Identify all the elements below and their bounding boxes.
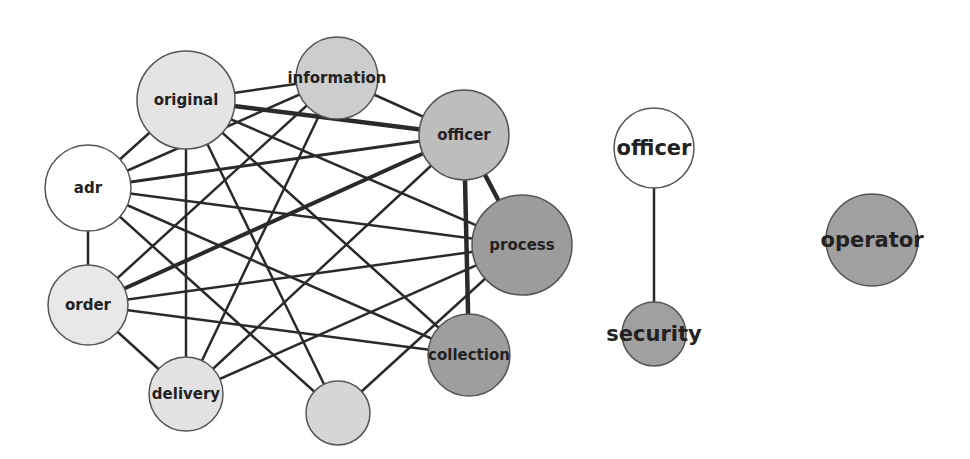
node-label: delivery — [152, 385, 221, 403]
node-label: security — [606, 322, 702, 346]
node-label: officer — [617, 136, 693, 160]
edge-officer-delivery — [186, 135, 464, 394]
node-adr[interactable]: adr — [45, 145, 131, 231]
node-operator[interactable]: operator — [820, 194, 924, 286]
node-label: operator — [820, 228, 924, 252]
nodes-layer: originalinformationofficeradrprocessorde… — [45, 37, 924, 445]
node-label: order — [65, 296, 112, 314]
network-graph: originalinformationofficeradrprocessorde… — [0, 0, 970, 459]
node-label: original — [154, 91, 219, 109]
node-unlabeled[interactable] — [306, 381, 370, 445]
node-order[interactable]: order — [48, 265, 128, 345]
node-officer-2[interactable]: officer — [614, 108, 694, 188]
node-process[interactable]: process — [472, 195, 572, 295]
node-original[interactable]: original — [137, 51, 235, 149]
node-label: collection — [428, 346, 510, 364]
node-label: adr — [74, 179, 103, 197]
node-label: information — [287, 69, 386, 87]
node-label: officer — [437, 126, 491, 144]
node-delivery[interactable]: delivery — [149, 357, 223, 431]
node-security[interactable]: security — [606, 302, 702, 366]
node-circle[interactable] — [306, 381, 370, 445]
node-collection[interactable]: collection — [428, 314, 510, 396]
node-officer[interactable]: officer — [419, 90, 509, 180]
node-information[interactable]: information — [287, 37, 386, 119]
node-label: process — [489, 236, 554, 254]
